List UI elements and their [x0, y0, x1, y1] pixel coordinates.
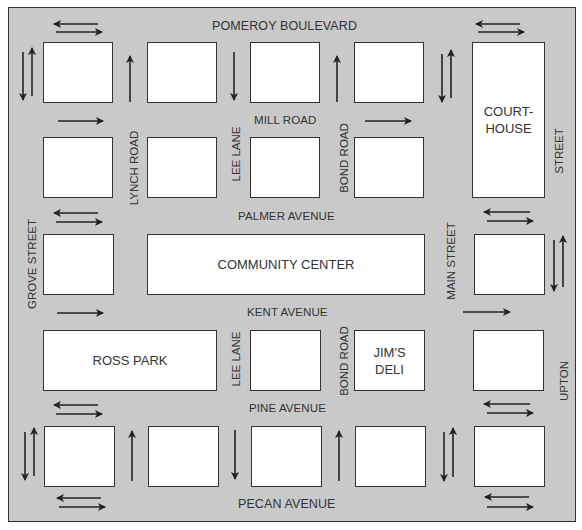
two-way-arrow-icon — [23, 48, 32, 100]
two-way-arrow-icon — [554, 236, 563, 291]
two-way-arrow-icon — [54, 213, 102, 222]
two-way-arrow-icon — [484, 212, 533, 221]
two-way-arrow-icon — [54, 405, 102, 414]
two-way-arrow-icon — [484, 404, 533, 413]
two-way-arrow-icon — [57, 498, 105, 507]
two-way-arrow-icon — [54, 24, 102, 32]
two-way-arrow-icon — [476, 24, 524, 32]
two-way-arrow-icon — [444, 428, 453, 481]
two-way-arrow-icon — [25, 428, 34, 480]
two-way-arrow-icon — [485, 497, 533, 507]
traffic-arrows — [0, 0, 582, 530]
two-way-arrow-icon — [442, 50, 451, 102]
